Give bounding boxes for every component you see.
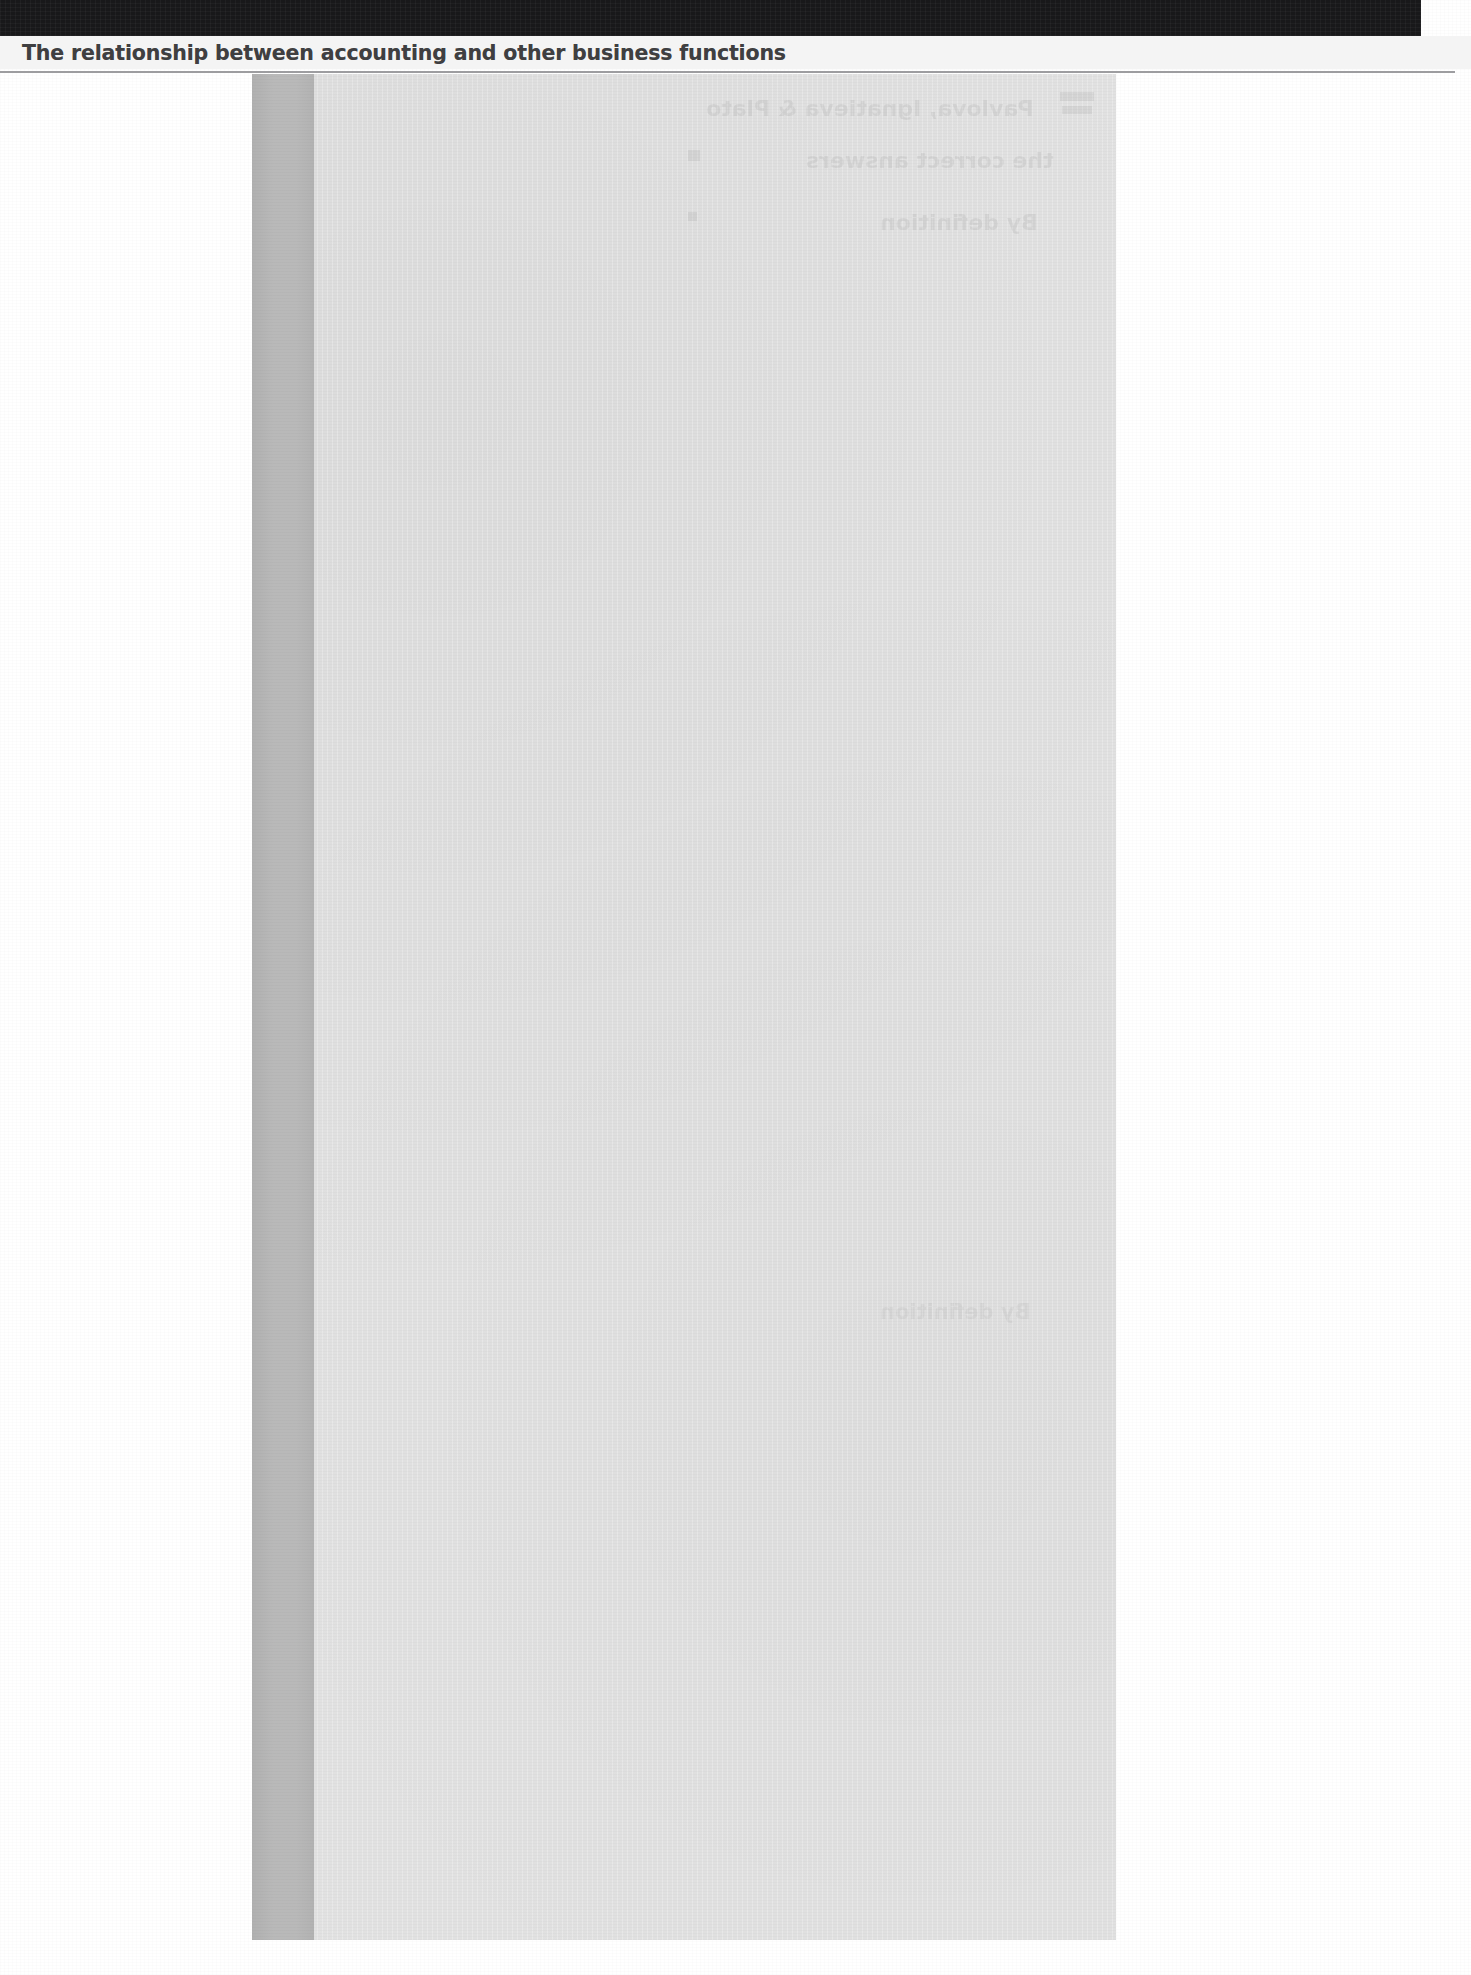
header-divider-rule: [0, 71, 1455, 73]
content-panel: [252, 74, 1116, 1940]
scanned-page: The relationship between accounting and …: [0, 0, 1471, 1975]
header-black-bar: [0, 0, 1421, 36]
page-gutter-bar: [252, 74, 314, 1940]
page-title: The relationship between accounting and …: [22, 38, 1122, 68]
